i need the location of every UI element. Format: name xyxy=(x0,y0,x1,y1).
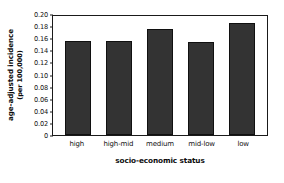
x-tick-label: mid-low xyxy=(181,140,223,152)
y-tick-label: 0.12 xyxy=(34,59,48,67)
chart-figure: age-adjusted incidence (per 100,000) 00.… xyxy=(0,0,284,183)
x-tick-label: high-mid xyxy=(98,140,140,152)
y-tick-label: 0.16 xyxy=(34,35,48,43)
y-axis-title-line1: age-adjusted incidence xyxy=(7,29,16,121)
bar-high-mid xyxy=(106,41,132,135)
y-tick-label: 0.20 xyxy=(34,11,48,19)
bar-medium xyxy=(147,29,173,135)
y-axis-title: age-adjusted incidence (per 100,000) xyxy=(2,14,28,136)
y-tick-label: 0.18 xyxy=(34,23,48,31)
y-tick-label: 0 xyxy=(44,132,48,140)
x-tick-label: medium xyxy=(139,140,181,152)
bar-high xyxy=(65,41,91,135)
bar-mid-low xyxy=(188,42,214,135)
y-tick-label: 0.06 xyxy=(34,96,48,104)
x-axis-tick-labels: highhigh-midmediummid-lowlow xyxy=(52,140,268,152)
y-tick-label: 0.04 xyxy=(34,108,48,116)
x-tick-label: high xyxy=(56,140,98,152)
y-tick-label: 0.10 xyxy=(34,72,48,80)
y-axis-tick-labels: 00.020.040.060.080.100.120.140.160.180.2… xyxy=(26,11,50,141)
bar-low xyxy=(229,23,255,135)
y-tick-label: 0.08 xyxy=(34,84,48,92)
x-axis-title: socio-economic status xyxy=(52,156,268,165)
bar-group xyxy=(53,16,267,135)
plot-area xyxy=(52,15,268,136)
x-tick-label: low xyxy=(222,140,264,152)
y-axis-title-line2: (per 100,000) xyxy=(15,29,23,121)
y-tick-label: 0.14 xyxy=(34,47,48,55)
y-tick-label: 0.02 xyxy=(34,120,48,128)
